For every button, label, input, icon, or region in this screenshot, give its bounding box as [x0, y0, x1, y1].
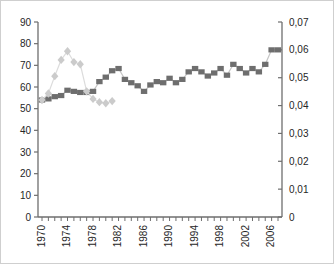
data-point-marker-diamond [77, 60, 84, 68]
data-point-marker-square [230, 62, 236, 67]
data-point-marker-square [64, 88, 70, 93]
data-point-marker-square [224, 73, 230, 78]
data-point-marker-diamond [109, 97, 116, 105]
right-axis-tick-label: 0,02 [289, 156, 309, 167]
data-point-marker-square [58, 93, 64, 98]
data-point-marker-square [275, 47, 281, 52]
data-point-marker-square [122, 77, 128, 82]
data-point-marker-square [249, 66, 255, 71]
x-axis-tick-label: 1978 [87, 225, 98, 248]
data-point-marker-diamond [96, 98, 103, 106]
data-point-marker-diamond [51, 72, 58, 80]
data-point-marker-square [262, 62, 268, 67]
data-point-marker-square [243, 70, 249, 75]
right-axis-tick-label: 0,04 [289, 100, 309, 111]
left-axis-tick-label: 10 [20, 190, 32, 201]
data-point-marker-square [166, 76, 172, 81]
line-chart-svg: 010203040506070809000,010,020,030,040,05… [1, 1, 333, 263]
x-axis-tick-label: 1974 [61, 225, 72, 248]
data-point-marker-square [192, 66, 198, 71]
x-axis-tick-label: 2002 [240, 225, 251, 248]
left-axis-tick-label: 90 [20, 17, 32, 28]
left-axis-tick-label: 50 [20, 103, 32, 114]
left-axis-tick-label: 40 [20, 125, 32, 136]
data-point-marker-square [103, 75, 109, 80]
x-axis-tick-label: 1998 [214, 225, 225, 248]
data-point-marker-square [217, 66, 223, 71]
left-axis-tick-label: 70 [20, 60, 32, 71]
x-axis-tick-label: 1990 [163, 225, 174, 248]
x-axis-tick-label: 1994 [189, 225, 200, 248]
data-point-marker-square [109, 68, 115, 73]
data-point-marker-square [211, 70, 217, 75]
left-axis-tick-label: 0 [25, 212, 31, 223]
left-axis-tick-label: 30 [20, 147, 32, 158]
data-point-marker-square [160, 80, 166, 85]
data-point-marker-square [198, 69, 204, 74]
data-point-marker-square [52, 94, 58, 99]
data-point-marker-square [179, 77, 185, 82]
data-point-marker-square [173, 80, 179, 85]
data-point-marker-square [237, 66, 243, 71]
right-axis-tick-label: 0,07 [289, 17, 309, 28]
x-axis-tick-label: 1970 [36, 225, 47, 248]
data-point-marker-square [205, 73, 211, 78]
data-point-marker-square [141, 89, 147, 94]
left-axis-tick-label: 80 [20, 38, 32, 49]
data-point-marker-square [115, 66, 121, 71]
data-point-marker-square [154, 79, 160, 84]
data-point-marker-square [134, 83, 140, 88]
chart-frame: 010203040506070809000,010,020,030,040,05… [0, 0, 334, 264]
right-axis-tick-label: 0,05 [289, 72, 309, 83]
data-point-marker-diamond [70, 58, 77, 66]
x-axis-tick-label: 1982 [112, 225, 123, 248]
right-axis-tick-label: 0,01 [289, 184, 309, 195]
x-axis-tick-label: 1986 [138, 225, 149, 248]
data-point-marker-square [90, 89, 96, 94]
data-point-marker-square [186, 69, 192, 74]
left-axis-tick-label: 20 [20, 168, 32, 179]
right-axis-tick-label: 0 [289, 212, 295, 223]
data-point-marker-square [256, 69, 262, 74]
data-point-marker-square [96, 79, 102, 84]
data-point-marker-square [268, 47, 274, 52]
left-axis-tick-label: 60 [20, 82, 32, 93]
data-point-marker-square [147, 82, 153, 87]
data-point-marker-square [77, 90, 83, 95]
x-axis-tick-label: 2006 [265, 225, 276, 248]
data-point-marker-square [128, 80, 134, 85]
right-axis-tick-label: 0,03 [289, 128, 309, 139]
data-point-marker-diamond [102, 99, 109, 107]
data-point-marker-square [71, 89, 77, 94]
right-axis-tick-label: 0,06 [289, 44, 309, 55]
